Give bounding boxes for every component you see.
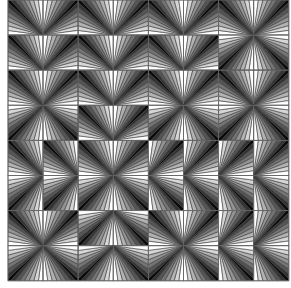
fan-tile — [184, 105, 219, 140]
fan-tile — [78, 211, 113, 246]
fan-tile — [254, 105, 289, 140]
fan-tile — [113, 105, 148, 140]
fan-tile — [184, 140, 219, 175]
fan-tile-pattern — [0, 0, 291, 288]
fan-tile — [219, 246, 254, 281]
fan-tile — [8, 246, 43, 281]
fan-tile — [8, 211, 43, 246]
fan-tile — [8, 0, 43, 35]
fan-tile — [184, 0, 219, 35]
fan-tile — [219, 176, 254, 211]
fan-tile — [113, 70, 148, 105]
fan-tile — [43, 70, 78, 105]
fan-tile — [219, 140, 254, 175]
fan-tile — [148, 176, 183, 211]
fan-tile — [219, 105, 254, 140]
fan-tile — [43, 0, 78, 35]
fan-tile — [219, 35, 254, 70]
fan-tile — [113, 246, 148, 281]
fan-tile — [78, 105, 113, 140]
fan-tile — [43, 105, 78, 140]
fan-tile — [148, 140, 183, 175]
fan-tile — [148, 70, 183, 105]
fan-tile — [8, 35, 43, 70]
fan-tile — [113, 211, 148, 246]
fan-tile — [113, 0, 148, 35]
fan-tile — [43, 246, 78, 281]
fan-tile — [43, 35, 78, 70]
fan-tile — [219, 211, 254, 246]
fan-tile — [184, 70, 219, 105]
fan-tile — [78, 246, 113, 281]
fan-tile — [184, 176, 219, 211]
fan-tile — [43, 211, 78, 246]
fan-tile — [219, 0, 254, 35]
fan-tile — [8, 70, 43, 105]
fan-tile — [148, 35, 183, 70]
fan-tile — [43, 140, 78, 175]
fan-tile — [254, 70, 289, 105]
fan-tile — [78, 176, 113, 211]
fan-tile — [184, 211, 219, 246]
fan-tile — [254, 211, 289, 246]
fan-tile — [113, 35, 148, 70]
fan-tile — [254, 246, 289, 281]
fan-tile — [78, 70, 113, 105]
fan-tile — [78, 0, 113, 35]
fan-tile — [8, 105, 43, 140]
fan-tile — [219, 70, 254, 105]
fan-tile — [254, 176, 289, 211]
fan-tile — [78, 35, 113, 70]
fan-tile — [78, 140, 113, 175]
fan-tile — [254, 0, 289, 35]
fan-tile — [254, 35, 289, 70]
fan-tile — [8, 176, 43, 211]
fan-tile — [148, 211, 183, 246]
fan-tile — [148, 246, 183, 281]
fan-tile — [148, 105, 183, 140]
fan-tile — [8, 140, 43, 175]
fan-tile — [254, 140, 289, 175]
fan-tile — [148, 0, 183, 35]
fan-tile — [184, 246, 219, 281]
fan-tile — [113, 140, 148, 175]
fan-tile — [113, 176, 148, 211]
fan-tile — [43, 176, 78, 211]
fan-tile — [184, 35, 219, 70]
